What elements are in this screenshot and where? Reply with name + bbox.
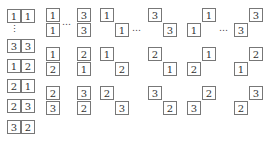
domino-cell-left: 2 [7,99,21,113]
ellipsis: … [62,18,71,27]
diag-down-cell-second: 2 [163,101,177,115]
vertical-cell-bottom: 2 [46,62,60,76]
domino-cell-right: 3 [21,39,35,53]
domino-cell-left: 1 [7,9,21,23]
vertical-cell-top: 2 [46,86,60,100]
diag-up-cell-first: 3 [249,8,263,22]
domino-cell-right: 1 [21,79,35,93]
diag-down-cell-first: 2 [148,47,162,61]
diag-down-cell-first: 3 [148,86,162,100]
vertical-cell-top: 3 [77,86,91,100]
diag-down-cell-second: 1 [163,62,177,76]
domino-cell-right: 3 [21,99,35,113]
domino-cell-left: 3 [7,39,21,53]
domino-cell-right: 2 [21,120,35,134]
diag-up-cell-second: 3 [187,101,201,115]
diag-up-cell-first: 1 [202,8,216,22]
diag-down-cell-second: 3 [115,101,129,115]
diag-up-cell-second: 2 [234,101,248,115]
diag-down-cell-second: 3 [163,23,177,37]
diag-down-cell-first: 1 [100,47,114,61]
diag-up-cell-second: 2 [187,62,201,76]
diag-up-cell-first: 3 [249,86,263,100]
vertical-cell-top: 2 [77,47,91,61]
vertical-cell-bottom: 1 [77,62,91,76]
diag-up-cell-first: 1 [202,47,216,61]
ellipsis: … [219,24,228,33]
diag-down-cell-second: 2 [115,62,129,76]
domino-cell-left: 2 [7,79,21,93]
diag-down-cell-first: 2 [100,86,114,100]
domino-cell-right: 2 [21,59,35,73]
domino-cell-left: 3 [7,120,21,134]
domino-cell-right: 1 [21,9,35,23]
diag-up-cell-second: 3 [234,23,248,37]
domino-diagram: 113312212332⋮113311331133………122112211221… [0,0,269,141]
diag-up-cell-second: 1 [187,23,201,37]
diag-up-cell-first: 2 [202,86,216,100]
domino-cell-left: 1 [7,59,21,73]
diag-down-cell-first: 3 [148,8,162,22]
vertical-ellipsis: ⋮ [7,27,21,31]
vertical-cell-top: 1 [46,47,60,61]
diag-up-cell-second: 1 [234,62,248,76]
diag-down-cell-second: 1 [115,23,129,37]
diag-down-cell-first: 1 [100,8,114,22]
ellipsis: … [132,24,141,33]
vertical-cell-bottom: 3 [46,101,60,115]
vertical-cell-bottom: 2 [77,101,91,115]
vertical-cell-top: 3 [77,8,91,22]
vertical-cell-bottom: 1 [46,23,60,37]
diag-up-cell-first: 2 [249,47,263,61]
vertical-cell-top: 1 [46,8,60,22]
vertical-cell-bottom: 3 [77,23,91,37]
